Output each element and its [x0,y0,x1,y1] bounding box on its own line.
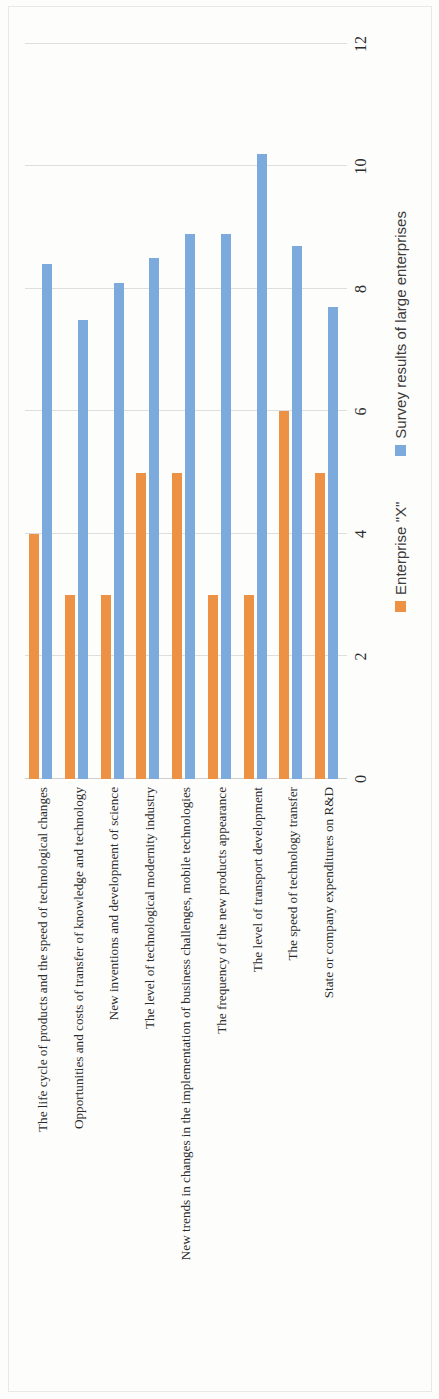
legend-label: Enterprise "X" [392,502,409,595]
category-label: The frequency of the new products appear… [215,787,228,1397]
bar-enterprise [101,595,111,779]
category-band [97,44,133,779]
bar-survey [257,154,267,779]
category-band [240,44,276,779]
bar-survey [185,234,195,779]
legend-item: Survey results of large enterprises [392,211,409,456]
legend-item: Enterprise "X" [392,502,409,612]
category-label: The level of technological modernity ind… [143,787,156,1397]
value-axis-tick-label: 0 [352,759,370,799]
category-label: New trends in changes in the implementat… [179,787,192,1397]
scanned-chart-page: The life cycle of products and the speed… [0,0,439,1399]
value-axis-tick-label: 4 [352,514,370,554]
value-axis-tick-label: 8 [352,269,370,309]
bar-chart: The life cycle of products and the speed… [0,0,439,1399]
bar-enterprise [208,595,218,779]
category-label: New inventions and development of scienc… [107,787,120,1397]
category-label: Opportunities and costs of transfer of k… [72,787,85,1397]
category-band [275,44,311,779]
category-label: The speed of technology transfer [286,787,299,1397]
bar-survey [328,307,338,779]
value-axis-tick-label: 2 [352,637,370,677]
bar-enterprise [172,473,182,779]
bar-enterprise [136,473,146,779]
value-axis-tick-label: 10 [352,147,370,187]
bar-enterprise [315,473,325,779]
bar-survey [78,320,88,779]
category-band [25,44,61,779]
bar-survey [149,258,159,779]
bar-enterprise [65,595,75,779]
plot-area [25,44,347,779]
category-label: The life cycle of products and the speed… [36,787,49,1397]
bar-survey [42,265,52,780]
legend-swatch-blue [395,445,406,456]
bar-survey [221,234,231,779]
value-axis-tick-label: 6 [352,392,370,432]
chart-legend: Enterprise "X"Survey results of large en… [392,44,409,779]
bar-enterprise [29,534,39,779]
bar-enterprise [244,595,254,779]
category-label: The level of transport development [251,787,264,1397]
category-axis-labels: The life cycle of products and the speed… [25,787,347,1399]
category-band [61,44,97,779]
bar-survey [114,283,124,779]
bar-survey [292,246,302,779]
legend-swatch-orange [395,601,406,612]
category-band [168,44,204,779]
category-band [311,44,347,779]
legend-label: Survey results of large enterprises [392,211,409,439]
rotated-chart-container: The life cycle of products and the speed… [0,0,439,1399]
category-band [132,44,168,779]
category-label: State or company expenditures on R&D [322,787,335,1397]
category-band [204,44,240,779]
bar-enterprise [279,412,289,780]
value-axis-tick-label: 12 [352,24,370,64]
